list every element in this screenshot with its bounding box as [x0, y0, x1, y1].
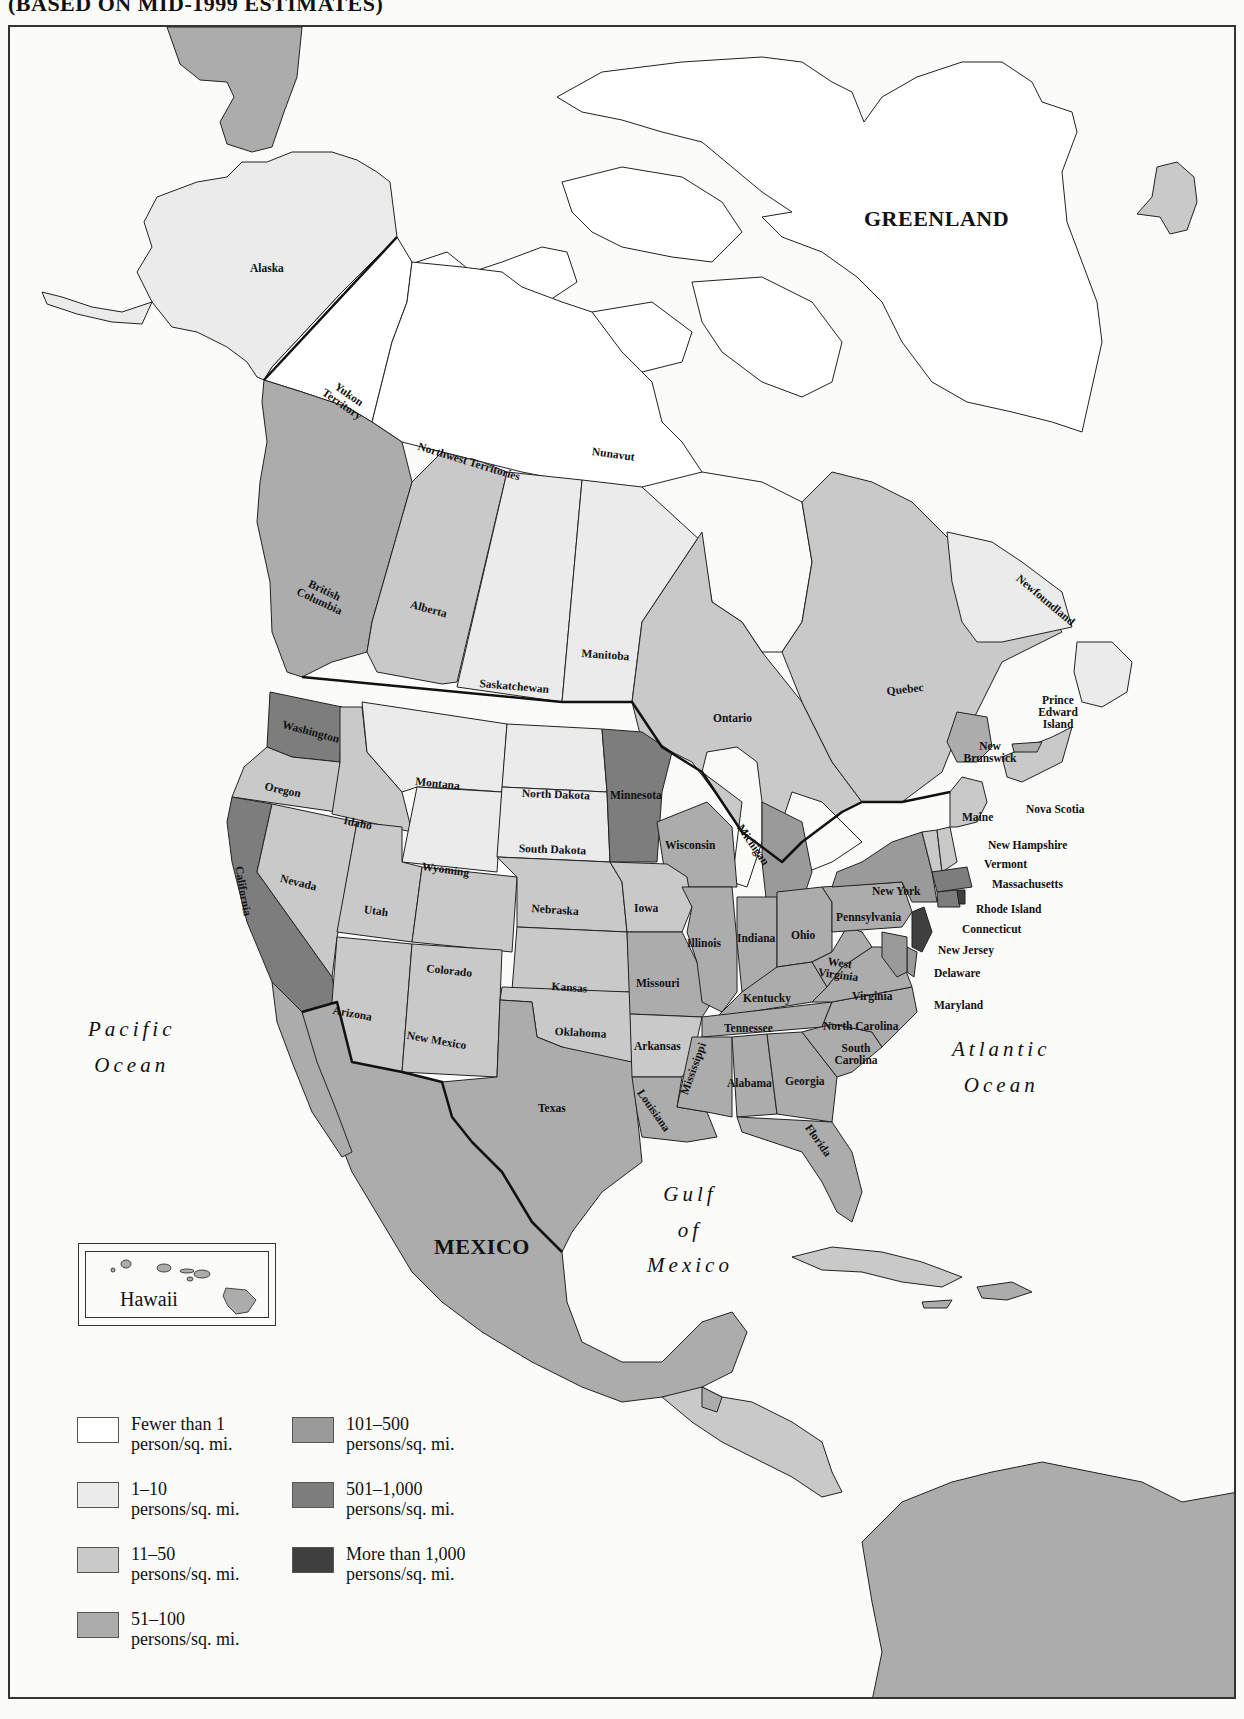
legend-item-1-10: 1–10persons/sq. mi. [77, 1479, 240, 1519]
label-massachusetts: Massachusetts [992, 878, 1063, 890]
legend-swatch [77, 1612, 119, 1638]
legend-unit: person/sq. mi. [131, 1434, 233, 1454]
label-virginia: Virginia [852, 990, 892, 1002]
legend-unit: persons/sq. mi. [346, 1434, 455, 1454]
legend-swatch [77, 1547, 119, 1573]
legend-item-lt1: Fewer than 1person/sq. mi. [77, 1414, 233, 1454]
label-mexico: MEXICO [434, 1235, 530, 1258]
label-kansas: Kansas [551, 980, 588, 995]
atlantic-line-1: Atlantic [952, 1032, 1051, 1068]
legend-label: 51–100 [131, 1609, 240, 1629]
pacific-line-1: Pacific [88, 1012, 175, 1048]
map-title: (BASED ON MID-1999 ESTIMATES) [8, 0, 383, 17]
label-iowa: Iowa [634, 902, 658, 914]
label-new-jersey: New Jersey [938, 944, 994, 956]
colorado-shape [412, 867, 517, 952]
south-america-shape [862, 1462, 1236, 1699]
label-maryland: Maryland [934, 999, 983, 1011]
hawaii-inset-inner-border: Hawaii [85, 1251, 269, 1318]
label-north-carolina: North Carolina [823, 1020, 899, 1032]
legend-swatch [292, 1482, 334, 1508]
new-jersey-shape [912, 907, 932, 952]
label-illinois: Illinois [687, 937, 721, 949]
cuba-shape [792, 1247, 962, 1287]
label-alabama: Alabama [727, 1077, 772, 1089]
label-south-carolina: South Carolina [826, 1042, 886, 1066]
label-wisconsin: Wisconsin [665, 839, 715, 851]
label-north-dakota: North Dakota [522, 787, 590, 801]
atlantic-line-2: Ocean [952, 1068, 1051, 1104]
legend-label: 11–50 [131, 1544, 240, 1564]
gulf-line-2: of [630, 1213, 750, 1249]
label-tennessee: Tennessee [724, 1022, 773, 1034]
label-greenland: GREENLAND [864, 207, 1009, 230]
label-pei: Prince Edward Island [1028, 694, 1088, 730]
nebraska-shape [497, 857, 627, 932]
hawaii-islands-shape [86, 1252, 270, 1318]
central-america-shape [662, 1387, 842, 1497]
label-pacific-ocean: Pacific Ocean [88, 1012, 175, 1083]
pacific-line-2: Ocean [88, 1048, 175, 1084]
label-nova-scotia: Nova Scotia [1026, 803, 1084, 815]
legend-label: 1–10 [131, 1479, 240, 1499]
legend-item-51-100: 51–100persons/sq. mi. [77, 1609, 240, 1649]
hawaii-inset: Hawaii [78, 1243, 276, 1326]
label-pennsylvania: Pennsylvania [836, 911, 901, 923]
legend-item-gt1000: More than 1,000persons/sq. mi. [292, 1544, 465, 1584]
gulf-line-3: Mexico [630, 1248, 750, 1284]
label-south-dakota: South Dakota [519, 842, 587, 856]
label-texas: Texas [538, 1102, 566, 1114]
connecticut-shape [937, 890, 960, 907]
hispaniola-shape [977, 1282, 1032, 1300]
wyoming-shape [402, 787, 502, 872]
label-ohio: Ohio [791, 929, 815, 941]
label-ontario: Ontario [713, 712, 752, 724]
legend-swatch [77, 1417, 119, 1443]
label-georgia: Georgia [785, 1075, 825, 1087]
label-maine: Maine [962, 811, 993, 823]
label-indiana: Indiana [737, 932, 775, 944]
legend-unit: persons/sq. mi. [131, 1564, 240, 1584]
label-atlantic-ocean: Atlantic Ocean [952, 1032, 1051, 1103]
siberia-shape [167, 27, 302, 152]
label-vermont: Vermont [984, 858, 1027, 870]
label-delaware: Delaware [934, 967, 980, 979]
rhode-island-shape [957, 890, 965, 904]
label-connecticut: Connecticut [962, 923, 1021, 935]
florida-shape [737, 1117, 862, 1222]
north-dakota-shape [502, 724, 607, 792]
label-alaska: Alaska [250, 262, 284, 274]
massachusetts-shape [932, 867, 972, 892]
legend-label: 101–500 [346, 1414, 455, 1434]
legend-item-501-1000: 501–1,000persons/sq. mi. [292, 1479, 455, 1519]
label-new-york: New York [872, 885, 920, 897]
newfoundland-labrador-shape [947, 532, 1072, 642]
legend-item-11-50: 11–50persons/sq. mi. [77, 1544, 240, 1584]
legend-unit: persons/sq. mi. [346, 1499, 455, 1519]
label-missouri: Missouri [636, 977, 679, 989]
legend-swatch [292, 1547, 334, 1573]
legend-swatch [292, 1417, 334, 1443]
label-gulf-of-mexico: Gulf of Mexico [630, 1177, 750, 1284]
legend-label: Fewer than 1 [131, 1414, 233, 1434]
legend-swatch [77, 1482, 119, 1508]
legend-unit: persons/sq. mi. [346, 1564, 465, 1584]
label-new-hampshire: New Hampshire [988, 839, 1067, 851]
legend-unit: persons/sq. mi. [131, 1499, 240, 1519]
legend-item-101-500: 101–500persons/sq. mi. [292, 1414, 455, 1454]
label-kentucky: Kentucky [743, 992, 791, 1004]
hawaii-label: Hawaii [120, 1288, 178, 1311]
label-new-brunswick: New Brunswick [960, 740, 1020, 764]
delaware-shape [907, 947, 917, 977]
iceland-shape [1137, 162, 1197, 234]
legend-unit: persons/sq. mi. [131, 1629, 240, 1649]
gulf-line-1: Gulf [630, 1177, 750, 1213]
label-minnesota: Minnesota [610, 789, 662, 801]
legend-label: More than 1,000 [346, 1544, 465, 1564]
legend-label: 501–1,000 [346, 1479, 455, 1499]
label-rhode-island: Rhode Island [976, 903, 1042, 915]
label-arkansas: Arkansas [634, 1040, 681, 1052]
